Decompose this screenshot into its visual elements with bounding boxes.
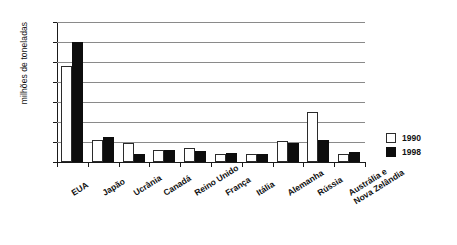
x-tick [303, 162, 304, 167]
bar-1998 [226, 153, 237, 162]
gridline-2000 [57, 122, 365, 123]
gridline-7000 [57, 22, 365, 23]
bar-1990 [338, 154, 349, 162]
x-axis-label: EUA [70, 180, 90, 198]
gridline-6000 [57, 42, 365, 43]
x-axis-label: Itália [255, 180, 277, 199]
x-axis-label: Ucrânia [132, 173, 164, 198]
legend-label-1998: 1998 [402, 148, 421, 157]
bar-1998 [318, 140, 329, 162]
bar-1990 [184, 148, 195, 162]
x-tick [211, 162, 212, 167]
bar-1990 [277, 141, 288, 162]
gridline-5000 [57, 62, 365, 63]
bar-1990 [215, 154, 226, 162]
x-tick [149, 162, 150, 167]
x-tick [88, 162, 89, 167]
bar-1990 [123, 143, 134, 162]
y-axis-line [57, 22, 58, 162]
y-axis-title: milhões de toneladas [19, 0, 29, 133]
x-axis-label: Japão [101, 177, 127, 198]
x-axis-label: Canadá [162, 174, 193, 199]
x-axis-label: Austrália e Nova Zelândia [347, 159, 406, 206]
x-tick [180, 162, 181, 167]
y-tick-1000 [53, 142, 57, 143]
bar-1998 [288, 143, 299, 162]
bar-1998 [72, 42, 83, 162]
legend-swatch-1990 [386, 133, 396, 143]
legend-item-1990: 1990 [386, 131, 421, 145]
plot-area: 01.0002.0003.0004.0005.0006.0007.000 EUA… [57, 22, 365, 162]
gridline-3000 [57, 102, 365, 103]
x-tick [57, 162, 58, 167]
bar-chart: milhões de toneladas 01.0002.0003.0004.0… [0, 0, 457, 245]
y-tick-7000 [53, 22, 57, 23]
bar-1990 [92, 140, 103, 162]
gridline-4000 [57, 82, 365, 83]
x-tick [365, 162, 366, 167]
bar-1990 [246, 154, 257, 162]
bar-1990 [307, 112, 318, 162]
bar-1998 [103, 137, 114, 162]
bar-1990 [153, 150, 164, 162]
bar-1998 [164, 150, 175, 162]
bar-1998 [257, 154, 268, 162]
legend-swatch-1998 [386, 147, 396, 157]
legend-item-1998: 1998 [386, 145, 421, 159]
x-tick [119, 162, 120, 167]
y-tick-4000 [53, 82, 57, 83]
legend: 1990 1998 [386, 131, 421, 159]
bar-1998 [349, 152, 360, 162]
x-tick [334, 162, 335, 167]
y-tick-2000 [53, 122, 57, 123]
x-tick [273, 162, 274, 167]
bar-1998 [134, 154, 145, 162]
y-tick-3000 [53, 102, 57, 103]
bar-1990 [61, 66, 72, 162]
bar-1998 [195, 151, 206, 162]
legend-label-1990: 1990 [402, 134, 421, 143]
x-tick [242, 162, 243, 167]
y-tick-5000 [53, 62, 57, 63]
y-tick-6000 [53, 42, 57, 43]
